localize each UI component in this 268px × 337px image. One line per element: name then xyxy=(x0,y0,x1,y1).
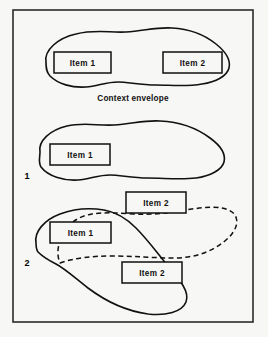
item-box-label: Item 1 xyxy=(68,229,94,238)
figure-canvas: Item 1 Item 2 Context envelope Item 1 1 … xyxy=(0,0,268,337)
item-box-label: Item 2 xyxy=(143,199,169,208)
item-box-label: Item 1 xyxy=(67,151,93,160)
group-index-label: 1 xyxy=(24,171,29,181)
item-box-label: Item 2 xyxy=(180,59,206,68)
context-envelope-caption: Context envelope xyxy=(97,94,169,103)
item-box-label: Item 2 xyxy=(139,269,165,278)
group-index-label: 2 xyxy=(24,258,29,268)
item-box-label: Item 1 xyxy=(70,59,96,68)
